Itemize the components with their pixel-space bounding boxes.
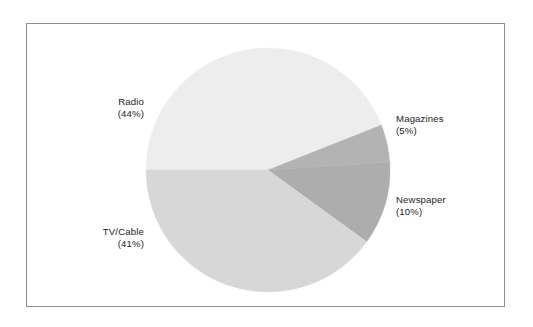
slice-label-magazines-percent: (5%) [396,125,514,137]
pie-chart-figure: Radio (44%) TV/Cable (41%) Magazines (5%… [0,0,533,327]
slice-label-magazines-name: Magazines [396,113,514,125]
slice-label-newspaper-percent: (10%) [396,206,514,218]
slice-label-tvcable-name: TV/Cable [48,226,144,238]
slice-label-tvcable: TV/Cable (41%) [48,226,144,250]
pie-slices-group [146,48,390,292]
slice-label-newspaper: Newspaper (10%) [396,194,514,218]
slice-label-radio-percent: (44%) [60,108,144,120]
slice-label-magazines: Magazines (5%) [396,113,514,137]
pie-chart-canvas [0,0,533,327]
slice-label-radio-name: Radio [60,96,144,108]
slice-label-tvcable-percent: (41%) [48,238,144,250]
slice-label-radio: Radio (44%) [60,96,144,120]
slice-label-newspaper-name: Newspaper [396,194,514,206]
